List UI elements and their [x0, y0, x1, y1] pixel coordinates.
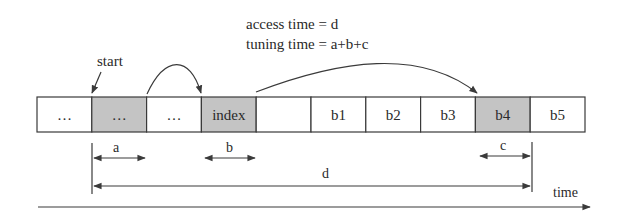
time-axis-label: time	[553, 185, 578, 200]
cell-label: b4	[495, 107, 511, 123]
start-label: start	[97, 53, 124, 69]
cell-label: b3	[441, 107, 456, 123]
jump-to-b4-arrow	[256, 63, 477, 93]
interval-b-label: b	[226, 140, 233, 155]
cell-label: …	[112, 107, 127, 123]
interval-a-label: a	[113, 140, 120, 155]
access-time-label: access time = d	[246, 16, 339, 32]
cell-label: …	[167, 107, 182, 123]
interval-c-label: c	[500, 138, 506, 153]
start-arrow	[92, 72, 101, 93]
cell-label: index	[212, 107, 246, 123]
cell-label: …	[57, 107, 72, 123]
cell-label: b2	[386, 107, 401, 123]
tuning-time-label: tuning time = a+b+c	[246, 36, 369, 52]
broadcast-timeline-diagram: access time = d tuning time = a+b+c star…	[0, 0, 623, 218]
cell-label: b1	[331, 107, 346, 123]
cell-slot-4	[256, 97, 311, 132]
jump-to-index-arrow	[147, 65, 201, 94]
cell-label: b5	[550, 107, 565, 123]
interval-d-label: d	[322, 166, 329, 181]
broadcast-cells: ………indexb1b2b3b4b5	[37, 97, 585, 132]
